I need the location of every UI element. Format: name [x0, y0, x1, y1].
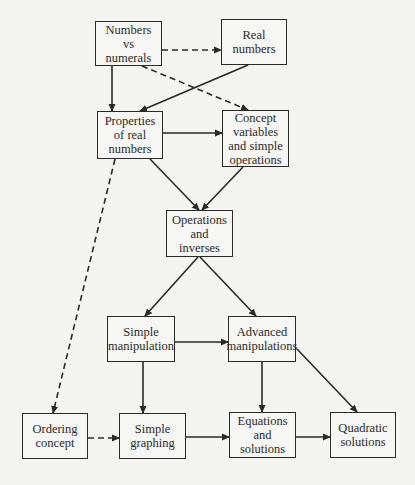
node-quadratic-solutions: Quadratic solutions: [330, 412, 396, 458]
edge-advanced-manipulations-to-quadratic-solutions: [297, 349, 357, 412]
edge-concept-variables-to-operations-and-inverses: [202, 167, 243, 210]
edge-operations-and-inverses-to-advanced-manipulations: [200, 257, 256, 316]
edge-operations-and-inverses-to-simple-manipulation: [145, 257, 198, 316]
node-properties-of-real-numbers: Properties of real numbers: [97, 111, 163, 159]
edge-properties-of-real-numbers-to-ordering-concept: [53, 159, 115, 413]
node-advanced-manipulations: Advanced manipulations: [228, 316, 296, 362]
concept-dependency-diagram: Numbers vs numerals Real numbers Propert…: [0, 0, 415, 485]
node-operations-and-inverses: Operations and inverses: [166, 210, 233, 257]
node-concept-variables: Concept variables and simple operations: [222, 110, 289, 167]
node-simple-graphing: Simple graphing: [119, 413, 186, 459]
node-real-numbers: Real numbers: [221, 19, 287, 65]
edge-properties-of-real-numbers-to-operations-and-inverses: [150, 159, 199, 210]
node-ordering-concept: Ordering concept: [22, 413, 88, 459]
node-equations-and-solutions: Equations and solutions: [229, 412, 296, 458]
node-simple-manipulation: Simple manipulation: [107, 316, 175, 362]
node-numbers-vs-numerals: Numbers vs numerals: [95, 21, 162, 66]
